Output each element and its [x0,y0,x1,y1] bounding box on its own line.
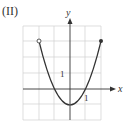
closed-endpoint [99,39,103,43]
axes [23,22,112,120]
y-tick-label: 1 [60,69,65,79]
y-axis-arrow-icon [68,18,73,24]
x-tick-label: 1 [84,93,89,103]
y-axis-label: y [65,7,71,18]
plot-area: x y 1 1 [0,0,126,128]
x-axis-arrow-icon [110,87,116,92]
open-endpoint [37,39,41,43]
x-axis-label: x [117,83,123,94]
